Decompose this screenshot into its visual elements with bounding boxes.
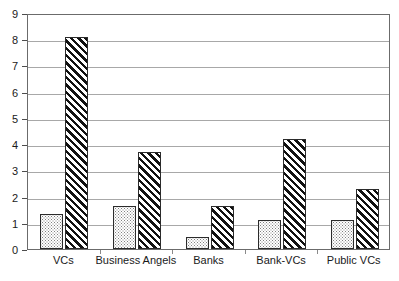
y-axis-tick-label: 0 [12, 245, 18, 256]
bar-chart: 0123456789 VCsBusiness AngelsBanksBank-V… [0, 0, 399, 281]
bar-series-2 [138, 152, 161, 249]
bar-series-2 [211, 206, 234, 249]
y-axis-tick-mark [22, 119, 27, 120]
y-axis-tick-mark [22, 250, 27, 251]
x-axis-tick-mark [100, 250, 101, 254]
bar-series-1 [258, 220, 281, 249]
plot-area [27, 14, 390, 250]
bar-group [113, 15, 161, 249]
x-axis-tick-label: VCs [53, 254, 74, 266]
bar-series-1 [40, 214, 63, 249]
y-axis-tick-mark [22, 171, 27, 172]
bar-group [40, 15, 88, 249]
y-axis-tick-label: 9 [12, 9, 18, 20]
y-axis-tick-label: 2 [12, 192, 18, 203]
bar-group [331, 15, 379, 249]
x-axis-tick-label: Business Angels [96, 254, 177, 266]
x-axis-tick-mark [245, 250, 246, 254]
y-axis-tick-mark [22, 66, 27, 67]
y-axis-tick-label: 8 [12, 35, 18, 46]
y-axis-tick-mark [22, 198, 27, 199]
bar-group [258, 15, 306, 249]
y-axis-tick-mark [22, 224, 27, 225]
x-axis-tick-label: Public VCs [327, 254, 381, 266]
y-axis-tick-label: 4 [12, 140, 18, 151]
y-axis: 0123456789 [0, 0, 24, 281]
y-axis-tick-label: 7 [12, 61, 18, 72]
bars-layer [28, 15, 389, 249]
bar-group [186, 15, 234, 249]
y-axis-tick-label: 6 [12, 87, 18, 98]
bar-series-1 [186, 237, 209, 249]
x-axis-tick-mark [317, 250, 318, 254]
y-axis-tick-mark [22, 145, 27, 146]
y-axis-tick-label: 5 [12, 113, 18, 124]
bar-series-2 [283, 139, 306, 249]
y-axis-tick-label: 3 [12, 166, 18, 177]
bar-series-1 [331, 220, 354, 249]
x-axis-tick-mark [172, 250, 173, 254]
y-axis-tick-label: 1 [12, 218, 18, 229]
bar-series-2 [65, 37, 88, 249]
bar-series-1 [113, 206, 136, 249]
y-axis-tick-mark [22, 14, 27, 15]
x-axis-tick-label: Banks [193, 254, 224, 266]
x-axis: VCsBusiness AngelsBanksBank-VCsPublic VC… [27, 254, 390, 278]
y-axis-tick-mark [22, 40, 27, 41]
bar-series-2 [356, 189, 379, 249]
y-axis-tick-mark [22, 93, 27, 94]
x-axis-tick-label: Bank-VCs [256, 254, 306, 266]
